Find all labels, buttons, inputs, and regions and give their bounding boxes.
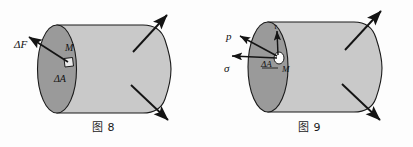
figure-8-caption: 图 8: [0, 118, 207, 134]
shear-stress-arrow: [277, 31, 278, 55]
pressure-label: p: [225, 30, 232, 42]
normal-stress-label: σ: [224, 62, 230, 74]
area-element-patch: [64, 58, 74, 68]
figure-sheet: ΔF M ΔA 图 8: [0, 0, 413, 147]
figure-9-panel: p σ τ ΔA M 图 9: [206, 0, 413, 147]
area-label: ΔA: [260, 59, 272, 69]
point-label: M: [64, 42, 74, 53]
figure-8-panel: ΔF M ΔA 图 8: [0, 0, 207, 147]
point-label: M: [281, 64, 290, 74]
force-label: ΔF: [13, 38, 27, 50]
figure-9-caption: 图 9: [206, 118, 413, 134]
cross-section-face: [38, 25, 77, 113]
area-label: ΔA: [53, 73, 67, 84]
